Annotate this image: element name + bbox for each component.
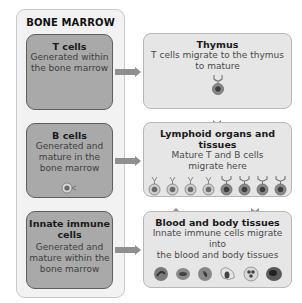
arrow-right-icon (115, 158, 136, 164)
b-cells-desc-line-3: bone marrow (27, 163, 112, 174)
thymus-box: Thymus T cells migrate to the thymus to … (143, 33, 292, 109)
bone-marrow-title: BONE MARROW (16, 17, 125, 28)
thymus-desc-line-2: to mature (144, 61, 291, 72)
t-cell-icon (144, 74, 291, 100)
blood-body-tissues-box: Blood and body tissues Innate immune cel… (143, 211, 292, 288)
innate-desc-line-2: mature within the (27, 253, 112, 264)
innate-title-line-2: cells (27, 229, 112, 240)
blood-desc-line-1: Innate immune cells migrate into (144, 228, 291, 250)
lymphocyte-row (144, 176, 291, 196)
arrow-up-icon (172, 200, 180, 207)
neutrophil-icon (153, 266, 169, 282)
t-cell-icon (238, 176, 251, 196)
arrow-down-icon (213, 112, 221, 119)
lymphoid-title: Lymphoid organs and tissues (144, 128, 291, 150)
macrophage-icon (219, 266, 237, 282)
t-cells-desc-line-2: the bone marrow (27, 63, 112, 74)
thymus-desc-line-1: T cells migrate to the thymus (144, 50, 291, 61)
lymphoid-desc-line-1: Mature T and B cells (144, 150, 291, 161)
t-cells-title: T cells (27, 41, 112, 52)
b-cell-icon (148, 176, 161, 196)
monocyte-icon (197, 266, 213, 282)
arrow-right-icon (115, 247, 136, 253)
lymphoid-organs-box: Lymphoid organs and tissues Mature T and… (143, 122, 292, 197)
t-cells-desc-line-1: Generated within (27, 52, 112, 63)
innate-desc-line-3: bone marrow (27, 264, 112, 275)
b-cells-box: B cells Generated and mature in the bone… (26, 123, 113, 198)
immature-b-cell-icon (27, 179, 112, 198)
b-cells-desc-line-2: mature in the (27, 152, 112, 163)
innate-desc-line-1: Generated and (27, 242, 112, 253)
innate-cell-row (144, 266, 291, 282)
arrow-down-icon (251, 200, 259, 207)
eosinophil-icon (175, 266, 191, 282)
t-cell-icon (274, 176, 287, 196)
b-cells-title: B cells (27, 130, 112, 141)
t-cell-icon (256, 176, 269, 196)
b-cells-desc-line-1: Generated and (27, 141, 112, 152)
b-cell-icon (166, 176, 179, 196)
b-cell-icon (184, 176, 197, 196)
b-cell-icon (202, 176, 215, 196)
blood-title: Blood and body tissues (144, 217, 291, 228)
blood-desc-line-2: the blood and body tissues (144, 250, 291, 261)
t-cell-icon (220, 176, 233, 196)
innate-immune-cells-box: Innate immune cells Generated and mature… (26, 211, 113, 289)
thymus-title: Thymus (144, 39, 291, 50)
mast-cell-icon (243, 266, 259, 282)
dendritic-cell-icon (265, 266, 283, 282)
lymphoid-desc-line-2: migrate here (144, 161, 291, 172)
arrow-right-icon (115, 69, 136, 75)
innate-title-line-1: Innate immune (27, 218, 112, 229)
t-cells-box: T cells Generated within the bone marrow (26, 34, 113, 110)
